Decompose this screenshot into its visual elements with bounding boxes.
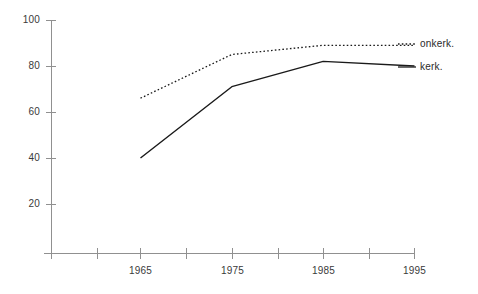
y-tick-label-80: 80 xyxy=(6,60,40,71)
x-tick-label-1995: 1995 xyxy=(391,265,438,276)
y-tick-label-60: 60 xyxy=(6,106,40,117)
line-chart: 100 80 60 40 20 1965 1975 1985 1995 onke… xyxy=(0,0,478,294)
chart-plot-area xyxy=(0,0,478,294)
x-tick-label-1985: 1985 xyxy=(300,265,347,276)
y-tick-label-100: 100 xyxy=(6,14,40,25)
legend-label-onkerk: onkerk. xyxy=(420,38,454,49)
y-tick-label-40: 40 xyxy=(6,152,40,163)
series-line-onkerk xyxy=(141,45,415,98)
x-tick-label-1965: 1965 xyxy=(117,265,164,276)
x-tick-label-1975: 1975 xyxy=(209,265,256,276)
legend-label-kerk: kerk. xyxy=(420,61,443,72)
y-tick-label-20: 20 xyxy=(6,198,40,209)
series-line-kerk xyxy=(141,61,415,158)
